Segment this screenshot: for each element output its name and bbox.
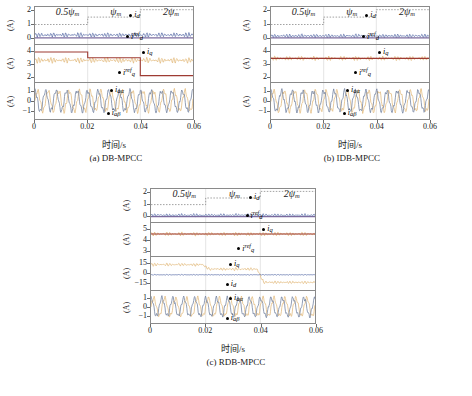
x-axis: 00.020.040.06: [150, 324, 316, 346]
x-tick-label: 0.02: [316, 122, 330, 131]
y-tick-label: −1: [258, 107, 267, 115]
flux-label-right: 2ψm: [163, 6, 179, 17]
y-axis-label-text: (A): [122, 267, 131, 278]
x-tick-label: 0.02: [198, 326, 212, 335]
x-tick-label: 0.04: [134, 122, 148, 131]
subplot-caption: (b) IDB-MPCC: [240, 153, 464, 163]
x-tick-label: 0.06: [309, 326, 323, 335]
annotation-id: id: [254, 192, 259, 201]
y-axis-label: (A): [240, 44, 254, 82]
panel-row: (A)234iqirefq: [4, 44, 228, 82]
x-tick-label: 0: [32, 122, 36, 131]
y-tick-group: 012: [133, 188, 149, 222]
y-axis-label-text: (A): [242, 95, 251, 106]
trace-canvas: [271, 45, 429, 82]
y-tick-label: −15: [134, 279, 147, 287]
annotation-iq-ref: irefq: [242, 243, 254, 253]
annotation-iq: iq: [383, 47, 388, 56]
y-tick-group: −101: [253, 82, 269, 120]
flux-label-mid: ψm: [110, 6, 121, 17]
flux-label-mid: ψm: [229, 188, 240, 199]
x-tick-label: 0.06: [423, 122, 437, 131]
subplot-1: (A)0120.5ψmψm2ψmidirefd(A)234iqirefq(A)−…: [4, 6, 228, 163]
flux-label-left: 0.5ψm: [173, 188, 196, 199]
series-id: [151, 274, 315, 275]
annotation-id: id: [134, 10, 139, 19]
plot-panel: 0.5ψmψm2ψmidirefd: [270, 6, 430, 44]
annotation-marker: [249, 196, 252, 199]
plot-panel: iaαiaβ: [150, 290, 316, 324]
plot-panel: iqid: [150, 256, 316, 290]
annotation-i-alpha: iaα: [351, 85, 360, 94]
annotation-iq: iq: [267, 224, 272, 233]
trace-canvas: [151, 223, 315, 256]
subplot-caption: (c) RDB-MPCC: [120, 357, 352, 367]
flux-label-left: 0.5ψm: [292, 6, 315, 17]
annotation-iq-ref: irefq: [359, 67, 371, 77]
panel-row: (A)345iqirefq: [120, 222, 352, 256]
y-tick-group: 234: [253, 44, 269, 82]
panel-stack: (A)0120.5ψmψm2ψmidirefd(A)345iqirefq(A)−…: [120, 188, 352, 367]
x-tick-label: 0: [268, 122, 272, 131]
annotation-id: id: [370, 10, 375, 19]
subplot-2: (A)0120.5ψmψm2ψmidirefd(A)234iqirefq(A)−…: [240, 6, 464, 163]
y-tick-group: 234: [17, 44, 33, 82]
panel-row: (A)−101iaαiaβ: [4, 82, 228, 120]
y-tick-group: 345: [133, 222, 149, 256]
x-tick-label: 0: [148, 326, 152, 335]
y-tick-group: 012: [253, 6, 269, 44]
subplot-caption: (a) DB-MPCC: [4, 153, 228, 163]
y-axis-label-text: (A): [242, 57, 251, 68]
plot-panel: iaαiaβ: [270, 82, 430, 120]
annotation-i-alpha: iaα: [234, 293, 243, 302]
annotation-id-ref: irefd: [131, 31, 143, 41]
x-tick-label: 0.06: [187, 122, 201, 131]
annotation-iq-ref: irefq: [123, 67, 135, 77]
y-axis-label: (A): [240, 82, 254, 120]
y-axis-label-text: (A): [6, 57, 15, 68]
y-axis-label-text: (A): [122, 233, 131, 244]
y-tick-group: 012: [17, 6, 33, 44]
annotation-i-beta: iaβ: [231, 313, 240, 322]
x-axis: 00.020.040.06: [34, 120, 194, 142]
annotation-marker: [107, 112, 110, 115]
panel-row: (A)−101iaαiaβ: [120, 290, 352, 324]
series-id: [35, 33, 193, 38]
y-tick-group: −15015: [133, 256, 149, 290]
y-axis-label-text: (A): [6, 19, 15, 30]
y-axis-label: (A): [4, 6, 18, 44]
annotation-i-beta: iaβ: [112, 108, 121, 117]
panel-row: (A)−101iaαiaβ: [240, 82, 464, 120]
y-tick-label: 15: [139, 259, 147, 267]
subplot-3: (A)0120.5ψmψm2ψmidirefd(A)345iqirefq(A)−…: [120, 188, 352, 367]
plot-panel: iqirefq: [150, 222, 316, 256]
annotation-id: id: [231, 279, 236, 288]
annotation-i-alpha: iaα: [115, 85, 124, 94]
figure-root: (A)0120.5ψmψm2ψmidirefd(A)234iqirefq(A)−…: [0, 0, 472, 396]
trace-canvas: [35, 45, 193, 82]
annotation-i-beta: iaβ: [348, 108, 357, 117]
annotation-marker: [142, 51, 145, 54]
y-axis-label-text: (A): [242, 19, 251, 30]
plot-panel: 0.5ψmψm2ψmidirefd: [150, 188, 316, 222]
annotation-marker: [246, 214, 249, 217]
y-tick-group: −101: [133, 290, 149, 324]
panel-row: (A)0120.5ψmψm2ψmidirefd: [240, 6, 464, 44]
panel-row: (A)0120.5ψmψm2ψmidirefd: [120, 188, 352, 222]
x-tick-label: 0.02: [80, 122, 94, 131]
annotation-marker: [343, 112, 346, 115]
y-tick-label: −1: [22, 107, 31, 115]
x-tick-label: 0.04: [254, 326, 268, 335]
flux-label-left: 0.5ψm: [56, 6, 79, 17]
panel-stack: (A)0120.5ψmψm2ψmidirefd(A)234iqirefq(A)−…: [4, 6, 228, 163]
y-axis-label-text: (A): [122, 199, 131, 210]
panel-row: (A)0120.5ψmψm2ψmidirefd: [4, 6, 228, 44]
x-axis: 00.020.040.06: [270, 120, 430, 142]
plot-panel: iaαiaβ: [34, 82, 194, 120]
annotation-marker: [126, 35, 129, 38]
y-tick-group: −101: [17, 82, 33, 120]
flux-label-right: 2ψm: [284, 188, 300, 199]
annotation-marker: [362, 35, 365, 38]
panel-stack: (A)0120.5ψmψm2ψmidirefd(A)234iqirefq(A)−…: [240, 6, 464, 163]
panel-row: (A)−15015iqid: [120, 256, 352, 290]
